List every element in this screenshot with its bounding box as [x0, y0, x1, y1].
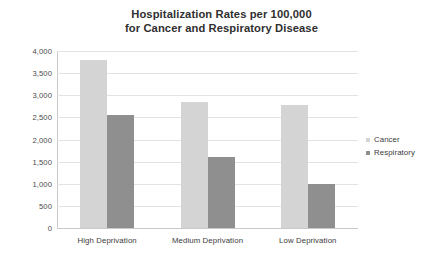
- x-axis-category-label: High Deprivation: [78, 236, 137, 245]
- x-axis-category-label: Low Deprivation: [279, 236, 336, 245]
- chart-title-line-1: Hospitalization Rates per 100,000: [131, 8, 312, 20]
- bar-group: [181, 51, 235, 228]
- bar-group: [281, 51, 335, 228]
- legend-label: Cancer: [374, 135, 400, 144]
- chart-title: Hospitalization Rates per 100,000 for Ca…: [0, 7, 443, 35]
- bar-respiratory[interactable]: [308, 184, 335, 228]
- y-axis-tick-label: 500: [6, 201, 52, 210]
- bar-respiratory[interactable]: [107, 115, 134, 228]
- y-axis-tick-label: 3,000: [6, 91, 52, 100]
- legend-item-cancer[interactable]: Cancer: [366, 133, 415, 146]
- chart-legend: CancerRespiratory: [366, 133, 415, 159]
- y-axis-tick-label: 1,500: [6, 157, 52, 166]
- y-axis-tick-label: 0: [6, 224, 52, 233]
- bar-cancer[interactable]: [181, 102, 208, 228]
- legend-label: Respiratory: [374, 148, 415, 157]
- bar-group: [80, 51, 134, 228]
- y-axis-tick-label: 1,000: [6, 179, 52, 188]
- y-axis-tick-label: 4,000: [6, 47, 52, 56]
- chart-title-line-2: for Cancer and Respiratory Disease: [0, 21, 443, 35]
- x-axis-category-label: Medium Deprivation: [172, 236, 243, 245]
- legend-swatch-icon: [366, 138, 370, 142]
- gridline: [57, 228, 358, 229]
- plot-area: [57, 51, 358, 228]
- legend-item-respiratory[interactable]: Respiratory: [366, 146, 415, 159]
- bar-chart: Hospitalization Rates per 100,000 for Ca…: [0, 0, 443, 266]
- y-axis-tick-label: 2,500: [6, 113, 52, 122]
- legend-swatch-icon: [366, 151, 370, 155]
- bar-respiratory[interactable]: [208, 157, 235, 228]
- y-axis-tick-label: 3,500: [6, 69, 52, 78]
- bar-cancer[interactable]: [281, 105, 308, 228]
- bar-cancer[interactable]: [80, 60, 107, 228]
- y-axis-tick-label: 2,000: [6, 135, 52, 144]
